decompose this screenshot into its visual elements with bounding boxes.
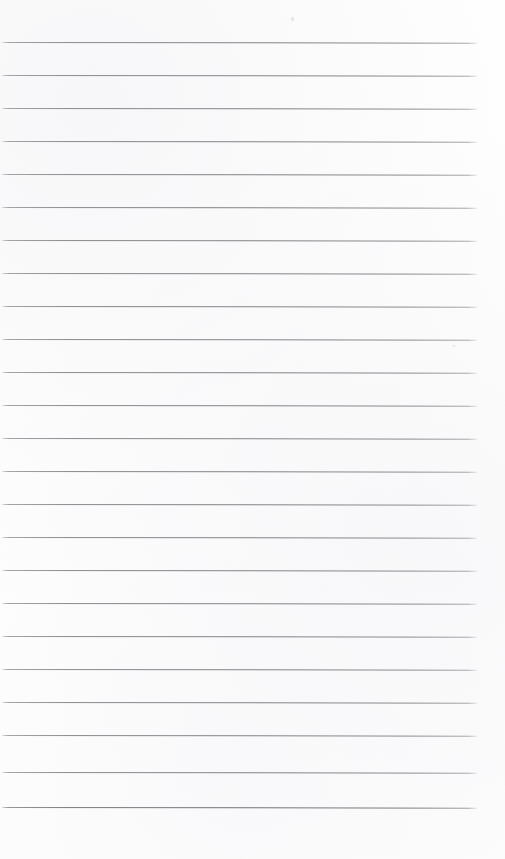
scan-dust-speck-icon [291,17,294,21]
writing-area[interactable] [2,42,477,808]
notebook-page [0,0,505,859]
